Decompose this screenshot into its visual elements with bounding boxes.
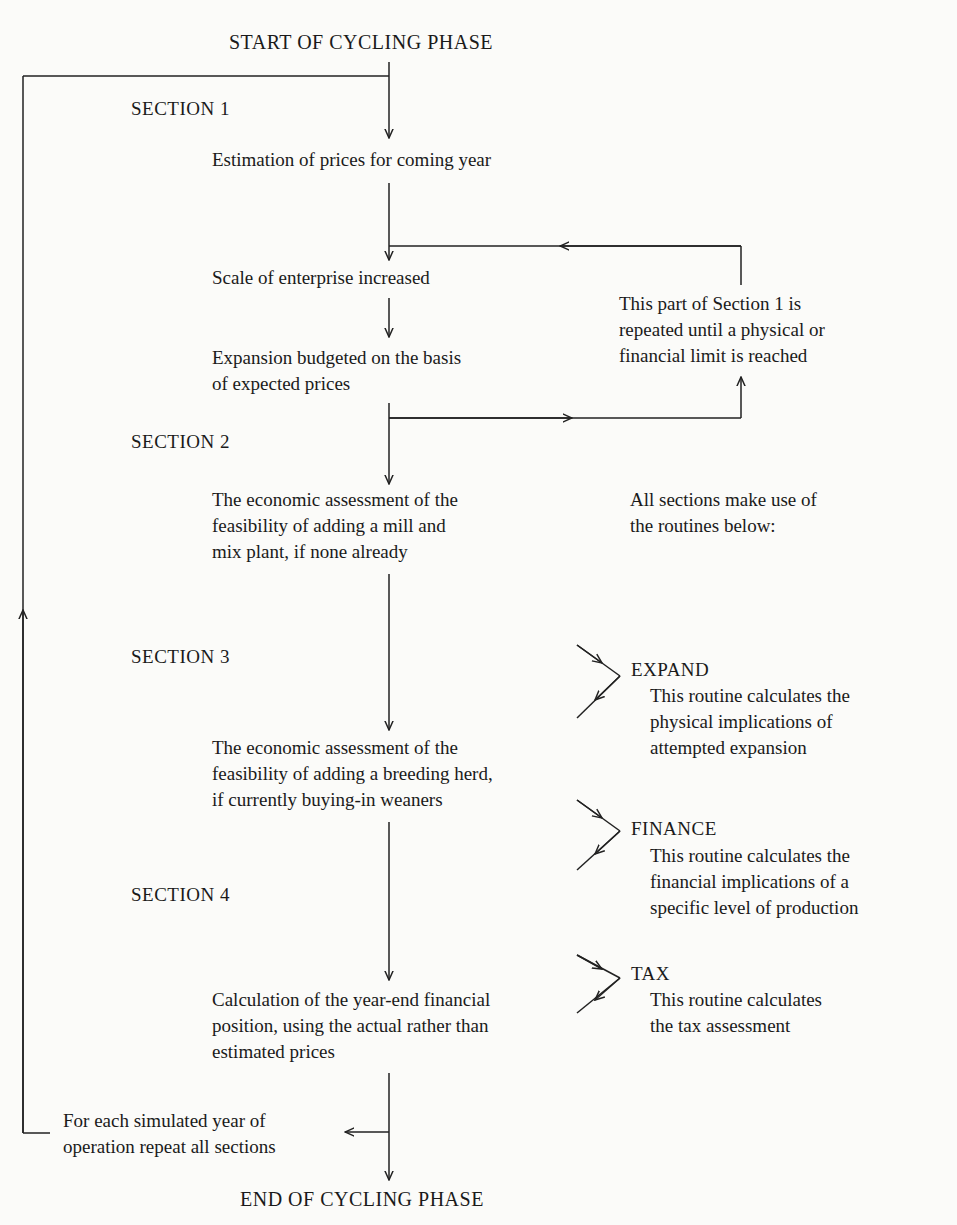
line: This part of Section 1 is — [619, 291, 825, 317]
line: estimated prices — [212, 1039, 490, 1065]
line: of expected prices — [212, 371, 461, 397]
line: This routine calculates — [650, 987, 822, 1013]
line: the tax assessment — [650, 1013, 822, 1039]
line: mix plant, if none already — [212, 539, 458, 565]
line: if currently buying-in weaners — [212, 787, 493, 813]
line: feasibility of adding a breeding herd, — [212, 761, 493, 787]
line: All sections make use of — [630, 487, 817, 513]
line: The economic assessment of the — [212, 735, 493, 761]
section-1-loop-note: This part of Section 1 is repeated until… — [619, 291, 825, 369]
line: physical implications of — [650, 709, 850, 735]
routine-tax-description: This routine calculates the tax assessme… — [650, 987, 822, 1039]
line: Calculation of the year-end financial — [212, 987, 490, 1013]
section-2-label: SECTION 2 — [131, 429, 230, 455]
end-label: END OF CYCLING PHASE — [240, 1186, 484, 1212]
routine-expand-description: This routine calculates the physical imp… — [650, 683, 850, 761]
step-scale-increased: Scale of enterprise increased — [212, 265, 430, 291]
line: repeated until a physical or — [619, 317, 825, 343]
routines-intro: All sections make use of the routines be… — [630, 487, 817, 539]
routine-finance-name: FINANCE — [631, 816, 717, 842]
step-breeding-herd: The economic assessment of the feasibili… — [212, 735, 493, 813]
line: This routine calculates the — [650, 843, 858, 869]
line: For each simulated year of — [63, 1108, 276, 1134]
line: attempted expansion — [650, 735, 850, 761]
section-3-label: SECTION 3 — [131, 644, 230, 670]
routine-finance-description: This routine calculates the financial im… — [650, 843, 858, 921]
line: financial limit is reached — [619, 343, 825, 369]
line: specific level of production — [650, 895, 858, 921]
step-expansion-budgeted: Expansion budgeted on the basis of expec… — [212, 345, 461, 397]
section-4-label: SECTION 4 — [131, 882, 230, 908]
start-label: START OF CYCLING PHASE — [229, 29, 493, 55]
routine-expand-name: EXPAND — [631, 657, 709, 683]
step-year-end-position: Calculation of the year-end financial po… — [212, 987, 490, 1065]
line: position, using the actual rather than — [212, 1013, 490, 1039]
line: This routine calculates the — [650, 683, 850, 709]
line: Expansion budgeted on the basis — [212, 345, 461, 371]
repeat-note: For each simulated year of operation rep… — [63, 1108, 276, 1160]
line: financial implications of a — [650, 869, 858, 895]
line: feasibility of adding a mill and — [212, 513, 458, 539]
step-mill-mix-plant: The economic assessment of the feasibili… — [212, 487, 458, 565]
line: The economic assessment of the — [212, 487, 458, 513]
section-1-label: SECTION 1 — [131, 96, 230, 122]
routine-tax-name: TAX — [631, 961, 670, 987]
line: the routines below: — [630, 513, 817, 539]
step-estimate-prices: Estimation of prices for coming year — [212, 147, 491, 173]
line: operation repeat all sections — [63, 1134, 276, 1160]
